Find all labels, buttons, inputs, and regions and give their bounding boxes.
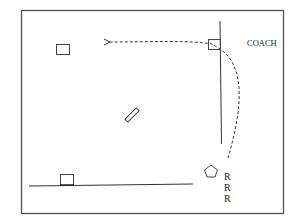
- third-base-icon: [61, 175, 74, 186]
- runner-label: R: [224, 182, 231, 193]
- home-plate-icon: [205, 165, 218, 177]
- baseball-diagram: COACH R R R: [0, 0, 297, 223]
- pitcher-rubber-icon: [125, 108, 139, 122]
- second-base-icon: [57, 45, 70, 55]
- runner-label: R: [224, 171, 231, 182]
- coach-label: COACH: [247, 38, 277, 48]
- runner-label: R: [224, 193, 231, 204]
- throw-path-arrow: [110, 42, 239, 159]
- baseline-horizontal: [29, 184, 193, 186]
